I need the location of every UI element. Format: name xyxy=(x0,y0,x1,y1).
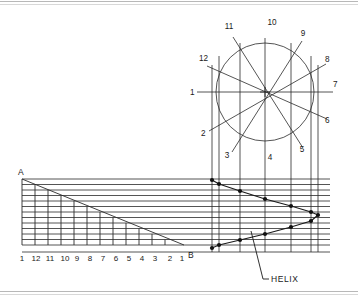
scale-label-10: 10 xyxy=(61,254,70,263)
scale-label-8: 8 xyxy=(88,254,93,263)
circle-label-6: 6 xyxy=(325,116,330,125)
helix-point xyxy=(238,189,242,193)
helix-point xyxy=(263,232,267,236)
scale-label-3: 3 xyxy=(153,254,158,263)
scale-label-9: 9 xyxy=(75,254,80,263)
scale-label-1a: 1 xyxy=(20,254,25,263)
corner-label-b: B xyxy=(188,250,194,260)
circle-label-9: 9 xyxy=(301,29,306,38)
circle-label-10: 10 xyxy=(267,18,277,27)
circle-label-5: 5 xyxy=(300,145,305,154)
scale-label-11: 11 xyxy=(46,254,55,263)
helix-point xyxy=(263,197,267,201)
scale-label-4: 4 xyxy=(140,254,145,263)
circle-label-2: 2 xyxy=(201,129,206,138)
circle-label-11: 11 xyxy=(225,22,234,31)
helix-point xyxy=(309,210,313,214)
helix-point xyxy=(289,225,293,229)
circle-label-3: 3 xyxy=(225,151,230,160)
helix-point xyxy=(316,213,320,217)
scale-label-1b: 1 xyxy=(180,254,185,263)
helix-label: HELIX xyxy=(271,274,299,284)
scale-label-6: 6 xyxy=(114,254,119,263)
helix-point xyxy=(309,219,313,223)
helix-point xyxy=(217,182,221,186)
helix-point xyxy=(217,243,221,247)
scale-label-12: 12 xyxy=(32,254,41,263)
circle-label-12: 12 xyxy=(199,54,209,63)
circle-label-1: 1 xyxy=(190,88,195,97)
circle-label-4: 4 xyxy=(268,153,273,162)
helix-construction-drawing: 1 2 3 4 5 6 7 8 9 10 11 12 xyxy=(0,0,358,300)
corner-label-a: A xyxy=(18,167,24,177)
helix-point xyxy=(238,238,242,242)
scale-label-2: 2 xyxy=(168,254,173,263)
circle-label-8: 8 xyxy=(325,55,330,64)
helix-point xyxy=(289,204,293,208)
circle-label-7: 7 xyxy=(333,80,338,89)
drawing-canvas: 1 2 3 4 5 6 7 8 9 10 11 12 xyxy=(0,0,358,300)
scale-label-7: 7 xyxy=(101,254,106,263)
helix-point xyxy=(210,246,214,250)
helix-point xyxy=(210,178,214,182)
scale-label-5: 5 xyxy=(127,254,132,263)
